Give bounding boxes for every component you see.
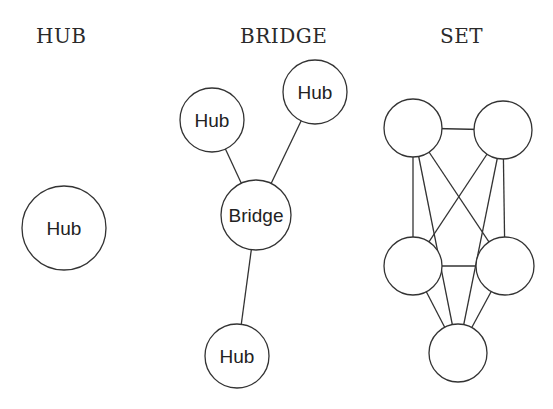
node-circle [384,99,442,157]
bridge-node-b_hub2: Hub [283,60,347,124]
hub-node-h1: Hub [22,186,106,270]
bridge-node-b_hub3: Hub [205,324,269,388]
node-circle [384,237,442,295]
bridge-node-b_hub1: Hub [180,88,244,152]
bridge-node-b_bridge: Bridge [221,180,291,250]
node-label: Hub [298,82,333,103]
network-diagrams: HUB BRIDGE SET HubHubHubBridgeHub [0,0,553,409]
node-label: Hub [47,218,82,239]
bridge-title: BRIDGE [240,24,327,48]
hub-title: HUB [36,24,87,48]
set-title: SET [440,24,483,48]
node-circle [429,324,487,382]
node-circle [474,101,532,159]
set-node-s_tl [384,99,442,157]
node-label: Bridge [229,205,284,226]
node-label: Hub [195,110,230,131]
set-node-s_b [429,324,487,382]
node-label: Hub [220,346,255,367]
set-node-s_mr [476,237,534,295]
nodes-layer: HubHubHubBridgeHub [22,60,534,388]
set-node-s_tr [474,101,532,159]
set-node-s_ml [384,237,442,295]
node-circle [476,237,534,295]
